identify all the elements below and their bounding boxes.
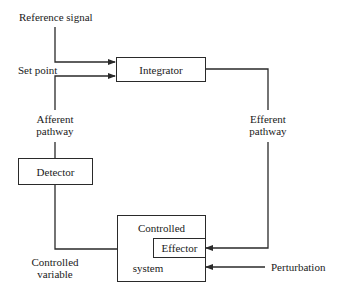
controlled-variable-label: Controlled variable: [25, 256, 85, 280]
efferent-line1: Efferent: [243, 113, 293, 125]
integrator-label: Integrator: [117, 64, 205, 76]
integrator-block: Integrator: [116, 57, 206, 82]
set-point-label: Set point: [18, 64, 57, 76]
controlled-variable-line2: variable: [25, 268, 85, 280]
afferent-line1: Afferent: [30, 113, 80, 125]
efferent-pathway-label: Efferent pathway: [243, 113, 293, 137]
detector-label: Detector: [19, 166, 92, 178]
efferent-line-upper: [205, 69, 268, 110]
effector-block: Effector: [153, 238, 206, 258]
controlled-variable-line1: Controlled: [25, 256, 85, 268]
reference-signal-arrow: [55, 27, 115, 62]
controlled-variable-line: [55, 184, 117, 249]
afferent-pathway-label: Afferent pathway: [30, 113, 80, 137]
controlled-system-label-top: Controlled: [118, 222, 205, 234]
detector-block: Detector: [18, 158, 93, 185]
perturbation-label: Perturbation: [271, 261, 325, 273]
controlled-system-label-bottom: system: [118, 262, 178, 274]
efferent-arrow: [206, 142, 268, 248]
efferent-line2: pathway: [243, 125, 293, 137]
afferent-line2: pathway: [30, 125, 80, 137]
afferent-arrow-top: [55, 76, 115, 110]
reference-signal-label: Reference signal: [19, 11, 93, 23]
effector-label: Effector: [154, 242, 205, 254]
